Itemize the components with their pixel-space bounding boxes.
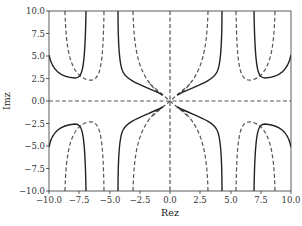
- y-tick: 7.5: [31, 29, 45, 39]
- y-axis: [46, 11, 49, 191]
- y-tick: −5.0: [24, 141, 45, 151]
- x-tick-labels: −10.0 −7.5 −5.0 −2.5 0.0 2.5 5.0 7.5 10.…: [36, 195, 301, 205]
- x-tick: −5.0: [100, 195, 121, 205]
- x-tick: −10.0: [36, 195, 62, 205]
- y-tick-labels: 10.0 7.5 5.0 2.5 0.0 −2.5 −5.0 −7.5 −10.…: [19, 6, 45, 196]
- y-tick: 10.0: [26, 6, 45, 16]
- x-axis-label: Rez: [161, 207, 179, 218]
- y-tick: −7.5: [24, 164, 45, 174]
- y-tick: 5.0: [31, 51, 45, 61]
- x-tick: 7.5: [254, 195, 268, 205]
- x-tick: −2.5: [130, 195, 151, 205]
- y-tick: 0.0: [31, 96, 45, 106]
- x-tick: 5.0: [224, 195, 238, 205]
- y-axis-label: Imz: [1, 92, 12, 110]
- x-tick: −7.5: [69, 195, 90, 205]
- y-tick: 2.5: [31, 74, 45, 84]
- plot-area: [49, 11, 291, 191]
- x-tick: 10.0: [282, 195, 301, 205]
- contour-chart: −10.0 −7.5 −5.0 −2.5 0.0 2.5 5.0 7.5 10.…: [0, 0, 302, 226]
- x-tick: 2.5: [193, 195, 207, 205]
- y-tick: −2.5: [24, 119, 45, 129]
- y-tick: −10.0: [19, 186, 45, 196]
- x-axis: [49, 191, 291, 194]
- x-tick: 0.0: [163, 195, 177, 205]
